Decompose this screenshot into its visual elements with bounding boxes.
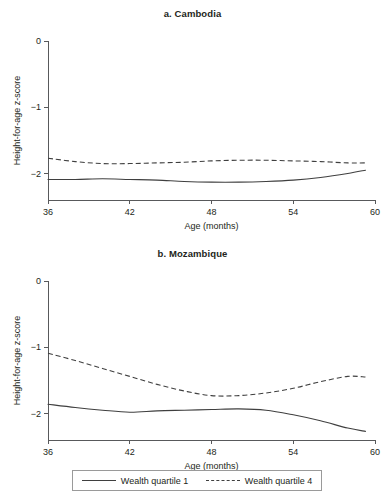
panel-cambodia: a. Cambodia 0−1−23642485460Age (months)H… bbox=[0, 0, 385, 240]
y-tick-label-0: 0 bbox=[36, 36, 41, 46]
x-tick-label-1: 42 bbox=[125, 447, 135, 457]
x-tick-label-0: 36 bbox=[43, 207, 53, 217]
series-line-quartile-4 bbox=[48, 353, 365, 396]
x-tick-label-3: 54 bbox=[288, 207, 298, 217]
y-tick-label-2: −2 bbox=[31, 409, 41, 419]
y-axis-title: Height-for-age z-score bbox=[12, 316, 22, 406]
x-tick-label-0: 36 bbox=[43, 447, 53, 457]
legend: Wealth quartile 1 Wealth quartile 4 bbox=[72, 470, 322, 491]
x-tick-label-2: 48 bbox=[206, 207, 216, 217]
x-tick-label-2: 48 bbox=[206, 447, 216, 457]
x-axis-title: Age (months) bbox=[184, 221, 238, 231]
legend-entry-quartile-4: Wealth quartile 4 bbox=[206, 476, 312, 486]
series-line-quartile-4 bbox=[48, 158, 365, 163]
y-tick-label-1: −1 bbox=[31, 342, 41, 352]
x-tick-label-1: 42 bbox=[125, 207, 135, 217]
x-tick-label-3: 54 bbox=[288, 447, 298, 457]
y-tick-label-1: −1 bbox=[31, 102, 41, 112]
x-tick-label-4: 60 bbox=[370, 207, 380, 217]
stunting-figure: a. Cambodia 0−1−23642485460Age (months)H… bbox=[0, 0, 385, 494]
legend-label-quartile-4: Wealth quartile 4 bbox=[245, 476, 312, 486]
x-tick-label-4: 60 bbox=[370, 447, 380, 457]
panel-a-plot: 0−1−23642485460Age (months)Height-for-ag… bbox=[0, 0, 385, 240]
legend-line-solid-icon bbox=[82, 480, 116, 481]
legend-line-dashed-icon bbox=[206, 480, 240, 481]
legend-label-quartile-1: Wealth quartile 1 bbox=[121, 476, 188, 486]
legend-entry-quartile-1: Wealth quartile 1 bbox=[82, 476, 188, 486]
series-line-quartile-1 bbox=[48, 404, 365, 431]
y-axis-title: Height-for-age z-score bbox=[12, 76, 22, 166]
y-tick-label-2: −2 bbox=[31, 169, 41, 179]
panel-b-plot: 0−1−23642485460Age (months)Height-for-ag… bbox=[0, 240, 385, 480]
series-line-quartile-1 bbox=[48, 170, 365, 182]
panel-mozambique: b. Mozambique 0−1−23642485460Age (months… bbox=[0, 240, 385, 480]
y-tick-label-0: 0 bbox=[36, 276, 41, 286]
